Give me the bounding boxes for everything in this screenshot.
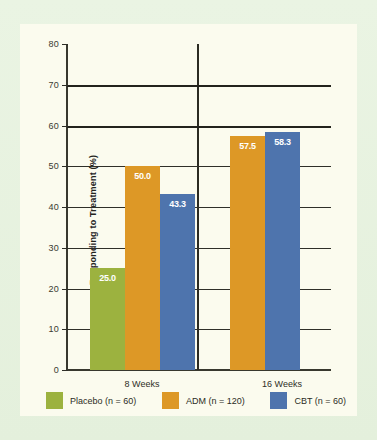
legend-item-cbt[interactable]: CBT (n = 60) xyxy=(270,392,346,409)
tick-30 xyxy=(62,248,68,249)
figure-frame: Responding to Treatment (%) 80 70 60 50 … xyxy=(0,0,377,440)
tick-80 xyxy=(62,44,68,45)
chart-panel: Responding to Treatment (%) 80 70 60 50 … xyxy=(20,24,357,416)
gridline-70 xyxy=(67,85,331,87)
gridline-60 xyxy=(67,126,331,128)
bar-adm-16-weeks[interactable]: 57.5 xyxy=(230,136,265,370)
y-tick-label-20: 20 xyxy=(49,284,59,294)
legend-label-cbt: CBT (n = 60) xyxy=(294,396,346,406)
legend-swatch-adm xyxy=(162,392,179,409)
legend-label-adm: ADM (n = 120) xyxy=(186,396,245,406)
tick-20 xyxy=(62,289,68,290)
bar-value-cbt-8-weeks: 43.3 xyxy=(160,199,195,209)
y-tick-label-30: 30 xyxy=(49,243,59,253)
tick-50 xyxy=(62,166,68,167)
bar-value-adm-16-weeks: 57.5 xyxy=(230,141,265,151)
bar-cbt-8-weeks[interactable]: 43.3 xyxy=(160,194,195,370)
bar-placebo-8-weeks[interactable]: 25.0 xyxy=(90,268,125,370)
legend-item-placebo[interactable]: Placebo (n = 60) xyxy=(46,392,136,409)
gridline-80 xyxy=(67,44,331,45)
y-tick-label-10: 10 xyxy=(49,324,59,334)
bar-value-placebo-8-weeks: 25.0 xyxy=(90,273,125,283)
chart-legend: Placebo (n = 60) ADM (n = 120) CBT (n = … xyxy=(46,392,346,409)
tick-0 xyxy=(62,370,68,371)
tick-70 xyxy=(62,85,68,86)
legend-label-placebo: Placebo (n = 60) xyxy=(70,396,136,406)
legend-swatch-placebo xyxy=(46,392,63,409)
tick-40 xyxy=(62,207,68,208)
bar-cbt-16-weeks[interactable]: 58.3 xyxy=(265,132,300,370)
bar-adm-8-weeks[interactable]: 50.0 xyxy=(125,166,160,370)
y-tick-label-60: 60 xyxy=(49,121,59,131)
y-tick-label-80: 80 xyxy=(49,39,59,49)
y-tick-label-0: 0 xyxy=(54,365,59,375)
legend-swatch-cbt xyxy=(270,392,287,409)
tick-60 xyxy=(62,126,68,127)
x-tick-label-16-weeks: 16 Weeks xyxy=(262,379,302,389)
y-tick-label-70: 70 xyxy=(49,80,59,90)
plot-area: 80 70 60 50 40 30 20 10 0 xyxy=(67,44,331,370)
legend-item-adm[interactable]: ADM (n = 120) xyxy=(162,392,245,409)
bar-value-cbt-16-weeks: 58.3 xyxy=(265,137,300,147)
x-tick-label-8-weeks: 8 Weeks xyxy=(125,379,160,389)
y-tick-label-50: 50 xyxy=(49,161,59,171)
y-tick-label-40: 40 xyxy=(49,202,59,212)
bar-value-adm-8-weeks: 50.0 xyxy=(125,171,160,181)
tick-10 xyxy=(62,329,68,330)
